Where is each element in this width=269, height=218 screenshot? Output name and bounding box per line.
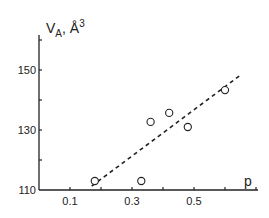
data-point xyxy=(221,87,228,94)
data-point xyxy=(184,123,191,130)
data-point xyxy=(138,177,145,184)
y-tick-label: 130 xyxy=(18,124,36,136)
data-point xyxy=(147,118,154,125)
axis-ticks: 1101301500.10.30.5 xyxy=(18,40,256,207)
axes xyxy=(39,35,258,190)
x-tick-label: 0.5 xyxy=(186,195,201,207)
regression-line xyxy=(92,75,241,186)
y-axis-label: VA, Å3 xyxy=(46,18,85,39)
x-axis-label: p xyxy=(244,173,252,189)
data-point xyxy=(166,109,173,116)
x-tick-label: 0.3 xyxy=(124,195,139,207)
x-tick-label: 0.1 xyxy=(62,195,77,207)
fit-line xyxy=(92,75,241,186)
y-tick-label: 150 xyxy=(18,64,36,76)
scatter-chart: 1101301500.10.30.5 VA, Å3 p xyxy=(0,0,269,218)
data-point xyxy=(91,177,98,184)
y-tick-label: 110 xyxy=(18,184,36,196)
